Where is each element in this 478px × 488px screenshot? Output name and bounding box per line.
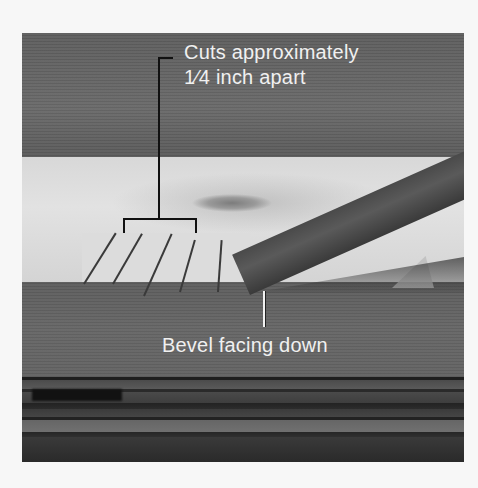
cuts-callout-leader	[158, 57, 160, 219]
cuts-bracket-left-leg	[123, 218, 125, 233]
bevel-label: Bevel facing down	[162, 333, 328, 357]
cuts-label-line1: Cuts approximately	[184, 40, 359, 64]
bevel-callout-leader-edge	[265, 291, 266, 327]
board-front-edge	[22, 282, 464, 377]
cut-area	[82, 233, 250, 282]
cuts-callout-hook	[158, 57, 173, 59]
cuts-bracket-right-leg	[195, 218, 197, 233]
cuts-bracket-top	[123, 218, 197, 220]
photo	[22, 33, 464, 462]
cuts-label-line2: 1⁄4 inch apart	[184, 65, 306, 89]
plank-dark-grain	[32, 389, 122, 401]
